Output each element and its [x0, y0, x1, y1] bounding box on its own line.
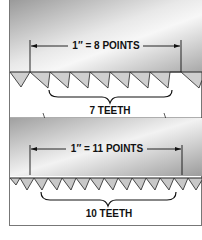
brace-top [49, 90, 172, 103]
teeth-label-bottom: 10 TEETH [80, 208, 138, 219]
measure-label-top: 1″ = 8 POINTS [70, 40, 142, 51]
blade-bottom [10, 118, 202, 190]
teeth-label-top: 7 TEETH [85, 105, 135, 116]
measure-label-bottom: 1″ = 11 POINTS [68, 143, 146, 154]
brace-bottom [41, 192, 176, 206]
